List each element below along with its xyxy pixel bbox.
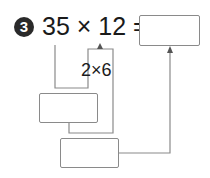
arrow-up-icon (167, 46, 173, 53)
step2-answer-box[interactable] (60, 138, 119, 168)
step1-answer-box[interactable] (39, 93, 98, 123)
final-answer-box[interactable] (139, 15, 200, 46)
decomposition-text: 2×6 (81, 60, 112, 81)
problem-number-badge: 3 (14, 17, 34, 37)
problem-expression: 35 × 12 = (42, 12, 148, 41)
arrow-up-icon (97, 43, 103, 49)
